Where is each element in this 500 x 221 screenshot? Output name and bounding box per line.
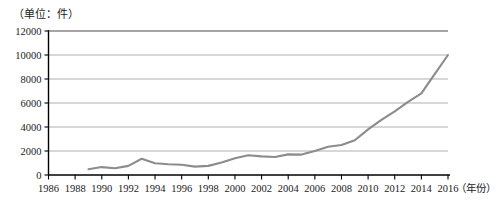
x-axis-tick-label: 1986 — [38, 183, 59, 194]
x-axis-tick-label: 1994 — [145, 183, 167, 194]
line-chart-plot: 020004000600080001000012000 198619881990… — [0, 0, 500, 221]
y-axis-tick-label: 0 — [36, 170, 41, 181]
x-axis-tick-label: 2004 — [278, 183, 300, 194]
x-axis-tick-label: 1998 — [198, 183, 219, 194]
x-axis-tick-label: 2006 — [304, 183, 325, 194]
x-axis-tick-label: 1990 — [91, 183, 112, 194]
y-axis-tick-label: 10000 — [15, 50, 41, 61]
chart-container: （单位：件） 020004000600080001000012000 19861… — [0, 0, 500, 221]
x-axis-tick-label: 2012 — [384, 183, 405, 194]
x-axis-tick-labels-group: 1986198819901992199419961998200020022004… — [38, 183, 459, 194]
data-series-line — [88, 55, 448, 169]
x-axis-tick-label: 1992 — [118, 183, 139, 194]
x-axis-tick-label: 2000 — [224, 183, 245, 194]
y-axis-tick-label: 12000 — [15, 26, 41, 37]
y-axis-tick-labels-group: 020004000600080001000012000 — [15, 26, 41, 181]
x-axis-title: （年份） — [456, 182, 496, 194]
gridlines-group — [49, 55, 449, 151]
x-axis-tick-label: 2008 — [331, 183, 352, 194]
x-axis-tick-label: 1988 — [65, 183, 86, 194]
y-axis-tick-label: 8000 — [21, 74, 42, 85]
y-axis-tick-label: 4000 — [21, 122, 42, 133]
y-axis-tick-label: 6000 — [21, 98, 42, 109]
x-axis-tick-label: 2002 — [251, 183, 272, 194]
x-axis-tick-label: 2014 — [411, 183, 433, 194]
x-axis-tick-label: 1996 — [171, 183, 192, 194]
x-axis-tick-label: 2010 — [358, 183, 379, 194]
y-axis-tick-label: 2000 — [21, 146, 42, 157]
